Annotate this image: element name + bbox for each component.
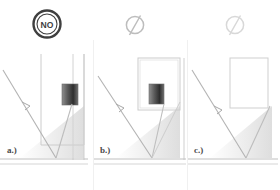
figure-canvas: NO xyxy=(0,0,280,190)
panel-label-b: b.) xyxy=(100,146,110,155)
panel-label-c: c.) xyxy=(194,146,203,155)
housing-outline xyxy=(230,58,268,108)
no-circle-icon[interactable]: NO xyxy=(31,8,63,44)
sensor-block xyxy=(149,84,164,104)
ground-shadow xyxy=(116,106,180,158)
panel-a-icon-slot: NO xyxy=(0,8,94,42)
panel-c: c.) xyxy=(188,0,280,190)
slashed-circle-icon[interactable] xyxy=(120,10,150,44)
panel-a: NO xyxy=(0,0,94,190)
panel-c-scene xyxy=(188,40,280,190)
sensor-block xyxy=(62,84,78,105)
panel-b-icon-slot xyxy=(94,8,188,42)
panel-b: b.) xyxy=(94,0,188,190)
panel-c-icon-slot xyxy=(188,8,280,42)
slashed-circle-icon[interactable] xyxy=(220,10,250,44)
no-icon-text: NO xyxy=(41,20,54,30)
panel-b-scene xyxy=(94,40,188,190)
panel-label-a: a.) xyxy=(7,146,17,155)
panel-a-scene xyxy=(0,40,94,190)
